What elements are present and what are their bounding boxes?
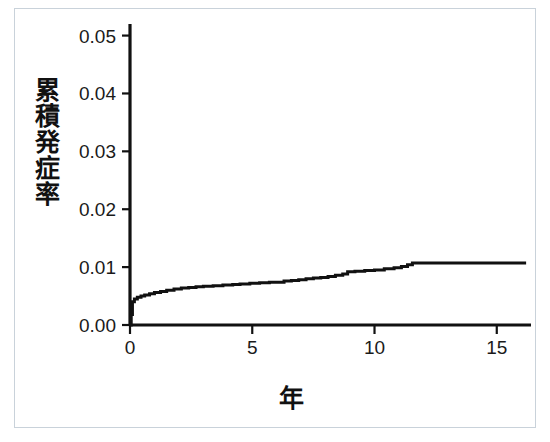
y-axis-title-char: 発 xyxy=(30,130,64,156)
y-tick-label: 0.04 xyxy=(79,83,116,104)
y-axis-title-char: 症 xyxy=(30,156,64,182)
y-axis-group: 0.000.010.020.030.040.05 xyxy=(79,24,130,336)
y-tick-label: 0.01 xyxy=(79,257,116,278)
y-axis-title-char: 率 xyxy=(30,182,64,208)
figure-root: 0.000.010.020.030.040.05 051015 累積発症率 年 xyxy=(0,0,550,442)
y-tick-label: 0.02 xyxy=(79,199,116,220)
x-axis-title-text: 年 xyxy=(279,378,304,414)
incidence-step-curve xyxy=(130,263,526,325)
y-tick-label: 0.03 xyxy=(79,141,116,162)
x-axis-group: 051015 xyxy=(125,325,531,358)
y-axis-title: 累積発症率 xyxy=(30,78,64,208)
x-tick-label: 0 xyxy=(125,337,136,358)
x-axis-title: 年 xyxy=(0,378,550,414)
x-tick-labels: 051015 xyxy=(125,337,508,358)
y-tick-label: 0.05 xyxy=(79,26,116,47)
cumulative-incidence-chart: 0.000.010.020.030.040.05 051015 xyxy=(0,0,550,442)
x-tick-label: 10 xyxy=(364,337,385,358)
x-tick-label: 15 xyxy=(486,337,507,358)
y-axis-title-char: 累 xyxy=(30,78,64,104)
x-tick-label: 5 xyxy=(247,337,258,358)
y-tick-label: 0.00 xyxy=(79,315,116,336)
y-tick-labels: 0.000.010.020.030.040.05 xyxy=(79,26,116,336)
y-axis-title-char: 積 xyxy=(30,104,64,130)
